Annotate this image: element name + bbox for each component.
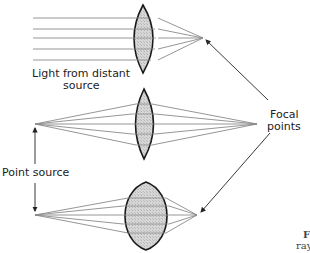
arrow-to-focal-top: [206, 40, 268, 100]
label-distant-source-line2: source: [63, 80, 100, 92]
arrow-to-focal-bottom: [201, 133, 270, 212]
panel-point-source-far: [35, 89, 257, 159]
lens-diagram: [0, 0, 310, 253]
panel-point-source-near: [35, 182, 197, 250]
caption-fragment-line2: ray: [296, 240, 310, 251]
convex-lens-top: [134, 5, 153, 73]
caption-fragment-line1: F: [303, 229, 310, 240]
parallel-rays: [33, 18, 203, 60]
panel-distant-source: [33, 5, 203, 73]
thick-convex-lens-bottom: [125, 182, 167, 250]
label-focal-points-line2: points: [267, 121, 301, 133]
label-point-source: Point source: [2, 167, 69, 179]
